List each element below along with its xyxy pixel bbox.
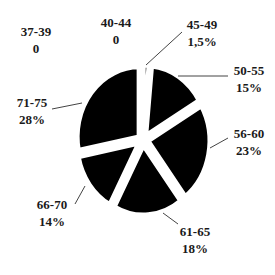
label-56-60-name: 56-60 [229,125,269,142]
label-40-44-name: 40-44 [96,14,136,31]
label-37-39: 37-39 0 [18,23,54,57]
leader-45-49 [146,32,182,65]
label-61-65-name: 61-65 [175,223,215,240]
label-40-44-value: 0 [96,31,136,48]
label-45-49: 45-49 1,5% [182,16,222,50]
label-45-49-name: 45-49 [182,16,222,33]
label-61-65-value: 18% [175,240,215,257]
label-56-60: 56-60 23% [229,125,269,159]
label-50-55-name: 50-55 [229,62,269,79]
label-61-65: 61-65 18% [175,223,215,257]
label-37-39-value: 0 [18,40,54,57]
leader-56-60 [210,138,228,148]
leader-71-75 [52,103,82,109]
label-71-75: 71-75 28% [12,94,52,128]
label-56-60-value: 23% [229,142,269,159]
label-40-44: 40-44 0 [96,14,136,48]
leader-66-70 [75,186,85,204]
label-71-75-value: 28% [12,111,52,128]
label-71-75-name: 71-75 [12,94,52,111]
label-50-55-value: 15% [229,79,269,96]
label-66-70: 66-70 14% [32,196,72,230]
pie-slice-71-75 [77,67,139,151]
pie-slices [77,65,210,215]
label-66-70-name: 66-70 [32,196,72,213]
label-66-70-value: 14% [32,213,72,230]
label-37-39-name: 37-39 [18,23,54,40]
label-45-49-value: 1,5% [182,33,222,50]
label-50-55: 50-55 15% [229,62,269,96]
